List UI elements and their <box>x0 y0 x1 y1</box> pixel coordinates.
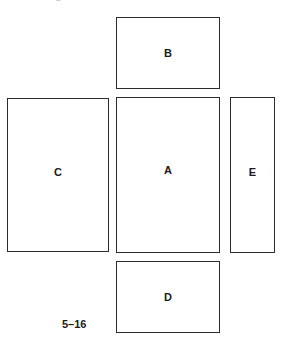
panel-e: E <box>230 97 275 253</box>
panel-e-label: E <box>249 167 256 178</box>
panel-b: B <box>116 17 220 89</box>
panel-d-label: D <box>164 292 172 303</box>
panel-c: C <box>7 98 109 252</box>
panel-a-label: A <box>164 165 172 176</box>
panel-b-label: B <box>164 48 172 59</box>
figure-canvas: —— ——— D ———— B C A E D 5–16 <box>0 0 284 347</box>
panel-a: A <box>116 97 220 253</box>
figure-caption: 5–16 <box>62 318 86 330</box>
clipped-header-text-label: —— ——— D ———— <box>4 0 102 3</box>
clipped-header-text: —— ——— D ———— <box>0 0 284 7</box>
panel-d: D <box>116 261 220 333</box>
panel-c-label: C <box>54 167 62 178</box>
